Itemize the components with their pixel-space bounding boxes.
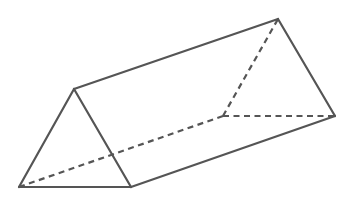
hidden-edge-front-left-to-back-left xyxy=(19,116,223,187)
edge-front-apex-to-front-left xyxy=(19,89,74,187)
edge-front-right-to-back-right xyxy=(131,116,335,187)
visible-edges xyxy=(19,19,335,187)
edge-front-apex-to-back-apex xyxy=(74,19,278,89)
triangular-prism-diagram xyxy=(0,0,355,201)
edge-back-apex-to-back-right xyxy=(278,19,335,116)
hidden-edge-back-left-to-back-apex xyxy=(223,19,278,116)
edge-front-apex-to-front-right xyxy=(74,89,131,187)
